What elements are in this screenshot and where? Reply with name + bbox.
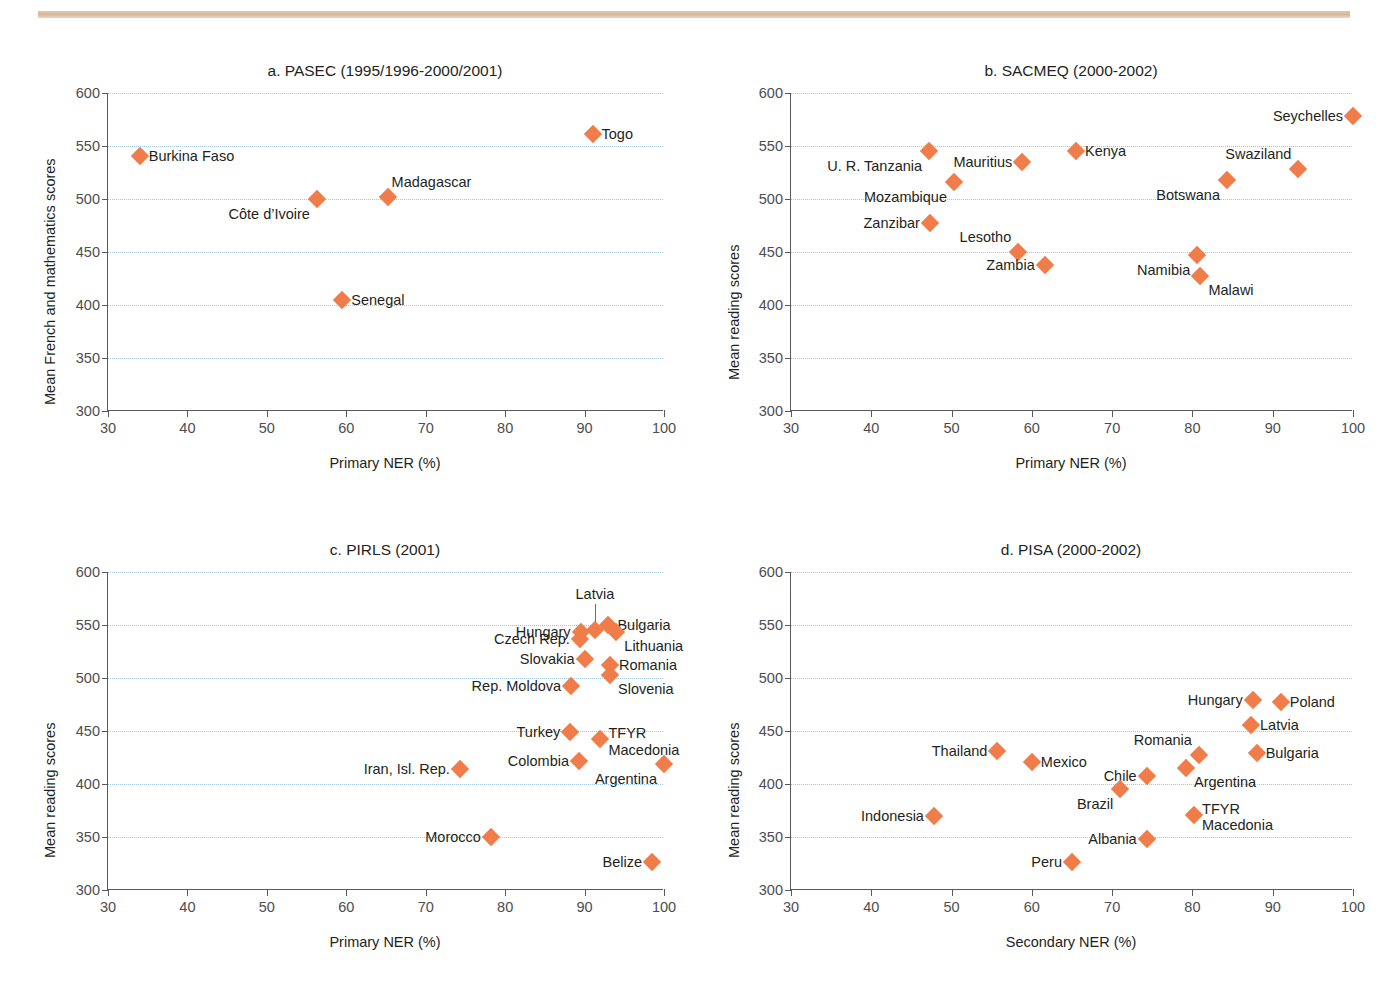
y-tick-label-a-350: 350: [76, 350, 100, 366]
x-tick-mark-c-90: [585, 889, 586, 896]
y-tick-mark-d-500: [785, 678, 791, 679]
data-point-label: Bulgaria: [1266, 745, 1319, 761]
y-tick-mark-b-350: [785, 358, 791, 359]
y-tick-label-b-400: 400: [759, 297, 783, 313]
y-tick-label-d-600: 600: [759, 564, 783, 580]
x-tick-label-d-30: 30: [783, 899, 799, 915]
y-tick-label-c-500: 500: [76, 670, 100, 686]
gridline-c-350: [108, 837, 663, 838]
x-tick-label-d-70: 70: [1104, 899, 1120, 915]
data-point-label: Romania: [619, 657, 677, 673]
x-tick-label-d-50: 50: [943, 899, 959, 915]
data-point-label: Malawi: [1208, 282, 1253, 298]
y-tick-mark-d-350: [785, 837, 791, 838]
chart-title-c: c. PIRLS (2001): [107, 541, 663, 559]
x-tick-mark-b-60: [1032, 410, 1033, 417]
y-tick-mark-c-450: [102, 731, 108, 732]
gridline-b-400: [791, 305, 1352, 306]
y-tick-label-d-450: 450: [759, 723, 783, 739]
gridline-d-550: [791, 625, 1352, 626]
x-tick-label-c-30: 30: [100, 899, 116, 915]
data-point-label: Togo: [602, 126, 633, 142]
data-point-marker: [921, 214, 939, 232]
x-tick-mark-a-70: [426, 410, 427, 417]
data-point-label: Belize: [603, 854, 643, 870]
y-tick-label-a-400: 400: [76, 297, 100, 313]
data-point-marker: [482, 828, 500, 846]
x-tick-mark-c-50: [267, 889, 268, 896]
data-point-label: Latvia: [1260, 717, 1299, 733]
x-tick-mark-d-70: [1112, 889, 1113, 896]
y-axis-label-a: Mean French and mathematics scores: [42, 158, 58, 405]
data-point-marker: [1013, 153, 1031, 171]
x-tick-mark-d-60: [1032, 889, 1033, 896]
y-tick-mark-a-350: [102, 358, 108, 359]
data-point-label: Zanzibar: [863, 215, 919, 231]
data-point-marker: [131, 146, 149, 164]
gridline-c-500: [108, 678, 663, 679]
y-tick-mark-c-600: [102, 572, 108, 573]
data-point-marker: [575, 650, 593, 668]
x-tick-mark-c-80: [505, 889, 506, 896]
data-point-label: Argentina: [595, 771, 657, 787]
x-tick-mark-d-50: [952, 889, 953, 896]
x-tick-label-a-100: 100: [652, 420, 676, 436]
page-header-rule: [0, 0, 1388, 30]
y-axis-label-c: Mean reading scores: [42, 723, 58, 858]
data-point-label: Rep. Moldova: [472, 678, 561, 694]
plot-area-c: 60055050045040035030030405060708090100La…: [107, 572, 663, 890]
x-tick-mark-b-100: [1353, 410, 1354, 417]
data-point-marker: [1063, 853, 1081, 871]
data-point-label: Senegal: [351, 292, 404, 308]
x-tick-label-d-100: 100: [1341, 899, 1365, 915]
x-tick-label-c-100: 100: [652, 899, 676, 915]
data-point-label: TFYRMacedonia: [608, 725, 679, 757]
gridline-c-450: [108, 731, 663, 732]
data-point-label: Zambia: [986, 257, 1034, 273]
y-tick-mark-d-600: [785, 572, 791, 573]
data-point-label: Latvia: [576, 586, 615, 602]
y-tick-label-d-500: 500: [759, 670, 783, 686]
data-point-marker: [1185, 806, 1203, 824]
data-point-marker: [1177, 759, 1195, 777]
x-tick-label-c-50: 50: [259, 899, 275, 915]
data-point-label: Kenya: [1085, 143, 1126, 159]
x-tick-label-b-80: 80: [1184, 420, 1200, 436]
data-point-marker: [378, 188, 396, 206]
y-tick-mark-b-550: [785, 146, 791, 147]
gridline-d-500: [791, 678, 1352, 679]
data-point-label: Swaziland: [1225, 146, 1291, 162]
x-tick-label-b-60: 60: [1024, 420, 1040, 436]
data-point-label: Mauritius: [953, 154, 1012, 170]
x-tick-mark-b-30: [791, 410, 792, 417]
data-point-label: Seychelles: [1273, 108, 1343, 124]
decorative-rule: [38, 11, 1350, 18]
data-point-label: Burkina Faso: [149, 147, 234, 163]
data-point-label: Argentina: [1194, 774, 1256, 790]
y-tick-mark-d-450: [785, 731, 791, 732]
data-point-label: TFYRMacedonia: [1202, 801, 1273, 833]
x-tick-label-d-40: 40: [863, 899, 879, 915]
y-axis-label-d: Mean reading scores: [726, 723, 742, 858]
y-tick-mark-a-450: [102, 252, 108, 253]
data-point-label: Brazil: [1077, 796, 1113, 812]
data-point-label: Mozambique: [864, 189, 947, 205]
data-point-marker: [1344, 107, 1362, 125]
gridline-c-400: [108, 784, 663, 785]
data-point-label: Bulgaria: [617, 617, 670, 633]
x-axis-label-b: Primary NER (%): [790, 455, 1352, 471]
x-tick-mark-b-70: [1112, 410, 1113, 417]
data-point-label: Hungary: [1188, 692, 1243, 708]
data-point-label: Slovenia: [618, 681, 674, 697]
data-point-marker: [561, 723, 579, 741]
data-point-label: Poland: [1290, 694, 1335, 710]
data-point-marker: [1137, 830, 1155, 848]
data-point-label: Colombia: [508, 753, 569, 769]
data-point-label: Albania: [1088, 831, 1136, 847]
x-tick-label-b-50: 50: [943, 420, 959, 436]
data-point-label: Iran, Isl. Rep.: [364, 761, 450, 777]
x-tick-label-d-80: 80: [1184, 899, 1200, 915]
data-point-marker: [1191, 267, 1209, 285]
gridline-a-600: [108, 93, 663, 94]
x-tick-mark-d-40: [871, 889, 872, 896]
